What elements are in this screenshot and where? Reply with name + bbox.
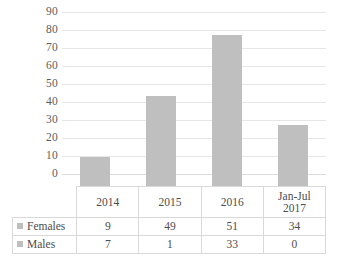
category-header-line2: 2017 (283, 202, 306, 214)
legend-cell-females[interactable]: Females (13, 218, 77, 236)
table-cell: 33 (201, 236, 263, 254)
y-axis-tick: 20 (18, 132, 58, 144)
table-cell: 9 (77, 218, 139, 236)
chart-data-table: 2014 2015 2016 Jan-Jul 2017 Females 9 (12, 186, 326, 254)
y-axis-tick: 60 (18, 60, 58, 72)
y-axis-tick: 0 (18, 168, 58, 180)
bar-slot (128, 8, 194, 186)
bar-slot (62, 8, 128, 186)
y-axis-tick: 70 (18, 42, 58, 54)
category-header-line1: 2014 (96, 196, 119, 208)
table-cell: 0 (263, 236, 325, 254)
bar-chart-with-data-table: 90 80 70 60 50 40 30 20 10 0 (0, 0, 341, 260)
bar-2016[interactable] (212, 35, 242, 186)
legend-column-header (13, 187, 77, 218)
category-header-2016: 2016 (201, 187, 263, 218)
category-header-line1: Jan-Jul (278, 190, 311, 202)
legend-label-males: Males (27, 238, 55, 251)
category-header-2014: 2014 (77, 187, 139, 218)
category-header-line1: 2016 (221, 196, 244, 208)
table-cell: 34 (263, 218, 325, 236)
y-axis-tick: 10 (18, 150, 58, 162)
category-header-line1: 2015 (158, 196, 181, 208)
bar-slot (260, 8, 326, 186)
table-header-row: 2014 2015 2016 Jan-Jul 2017 (13, 187, 326, 218)
bar-jan-jul-2017[interactable] (278, 125, 308, 186)
bar-series (62, 8, 326, 186)
y-axis-tick: 30 (18, 114, 58, 126)
category-header-2015: 2015 (139, 187, 201, 218)
table-cell: 51 (201, 218, 263, 236)
y-axis-tick: 80 (18, 24, 58, 36)
category-header-jan-jul-2017: Jan-Jul 2017 (263, 187, 325, 218)
table-cell: 49 (139, 218, 201, 236)
y-axis: 90 80 70 60 50 40 30 20 10 0 (18, 8, 58, 186)
plot-area: 90 80 70 60 50 40 30 20 10 0 (0, 8, 341, 186)
y-axis-tick: 90 (18, 6, 58, 18)
legend-swatch-icon (17, 223, 23, 229)
table-cell: 7 (77, 236, 139, 254)
y-axis-tick: 40 (18, 96, 58, 108)
bar-2014[interactable] (80, 157, 110, 186)
legend-label-females: Females (27, 220, 65, 233)
legend-cell-males[interactable]: Males (13, 236, 77, 254)
table-row-males: Males 7 1 33 0 (13, 236, 326, 254)
table-row-females: Females 9 49 51 34 (13, 218, 326, 236)
legend-swatch-icon (17, 241, 23, 247)
table-cell: 1 (139, 236, 201, 254)
bar-slot (194, 8, 260, 186)
y-axis-tick: 50 (18, 78, 58, 90)
bar-2015[interactable] (146, 96, 176, 186)
